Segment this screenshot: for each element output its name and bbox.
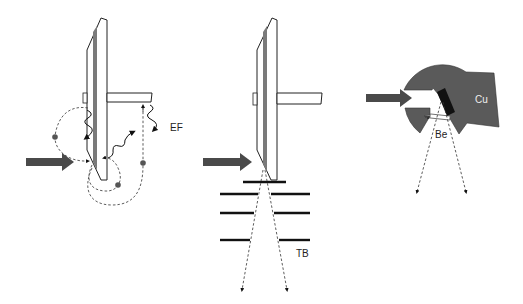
beam-arrow: [26, 153, 74, 171]
copper-lower-jaw: [405, 108, 431, 133]
beam-arrow: [366, 89, 412, 107]
diverging-rays: [242, 170, 287, 290]
panel-transmission-baffles: TB: [203, 18, 322, 290]
label-be: Be: [435, 129, 448, 140]
panel-copper-block: Be Cu: [366, 65, 500, 192]
diagram-canvas: EF TB: [0, 0, 523, 304]
panel-electron-fluorescence: EF: [26, 18, 183, 205]
label-cu: Cu: [475, 94, 488, 105]
rod: [277, 93, 322, 104]
trajectory-dot: [115, 182, 121, 188]
trajectory-dot: [140, 160, 146, 166]
target-plate: [83, 18, 107, 180]
trajectory-dot: [52, 134, 58, 140]
target-clip: [83, 93, 87, 103]
target-clip: [253, 93, 257, 105]
label-ef: EF: [170, 122, 183, 133]
transmission-baffles: [220, 182, 310, 240]
rod: [107, 93, 152, 102]
label-tb: TB: [296, 248, 309, 259]
target-plate: [253, 18, 277, 180]
beam-arrow: [203, 153, 252, 171]
